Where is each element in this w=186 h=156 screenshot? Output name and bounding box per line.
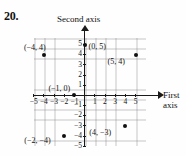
data-point-label: (−4, 4) — [24, 43, 46, 52]
y-tick-label: −2 — [70, 111, 82, 119]
data-point — [83, 43, 87, 47]
data-point-label: (0, 5) — [89, 42, 106, 51]
data-point-label: (−1, 0) — [48, 84, 70, 93]
first-axis-title-line2: axis — [163, 100, 186, 110]
y-tick-label: 2 — [70, 71, 82, 79]
x-tick-mark — [115, 94, 116, 97]
exercise-figure: 20. Second axis First axis −5−4−3−2−1123… — [0, 0, 186, 156]
y-tick-mark — [83, 125, 86, 126]
data-point-label: (−2, −4) — [24, 136, 50, 145]
y-tick-mark — [83, 136, 86, 137]
x-tick-mark — [135, 94, 136, 97]
x-tick-mark — [33, 94, 34, 97]
data-point-label: (4, −3) — [89, 128, 111, 137]
y-tick-label: −3 — [70, 122, 82, 130]
x-tick-mark — [94, 94, 95, 97]
coordinate-plane: Second axis First axis −5−4−3−2−11234554… — [0, 0, 186, 156]
y-tick-label: −4 — [70, 132, 82, 140]
y-tick-label: 3 — [70, 61, 82, 69]
x-tick-mark — [54, 94, 55, 97]
y-tick-label: 4 — [70, 50, 82, 58]
y-tick-label: 1 — [70, 81, 82, 89]
x-tick-mark — [43, 94, 44, 97]
second-axis-title: Second axis — [57, 14, 100, 24]
x-tick-label: 5 — [130, 98, 142, 106]
y-tick-mark — [83, 64, 86, 65]
y-tick-label: 5 — [70, 40, 82, 48]
y-tick-mark — [83, 115, 86, 116]
data-point — [134, 53, 138, 57]
y-tick-mark — [83, 85, 86, 86]
y-tick-label: −5 — [70, 142, 82, 150]
x-tick-mark — [125, 94, 126, 97]
y-tick-mark — [83, 146, 86, 147]
x-tick-mark — [105, 94, 106, 97]
x-tick-mark — [64, 94, 65, 97]
first-axis-title-line1: First — [163, 90, 186, 100]
second-axis-line — [84, 30, 85, 146]
first-axis-title: First axis — [163, 90, 186, 110]
y-tick-mark — [83, 75, 86, 76]
data-point — [42, 53, 46, 57]
data-point-label: (5, 4) — [108, 57, 125, 66]
y-tick-mark — [83, 54, 86, 55]
y-tick-label: −1 — [70, 101, 82, 109]
second-axis-arrow-icon — [81, 25, 89, 31]
y-tick-mark — [83, 105, 86, 106]
